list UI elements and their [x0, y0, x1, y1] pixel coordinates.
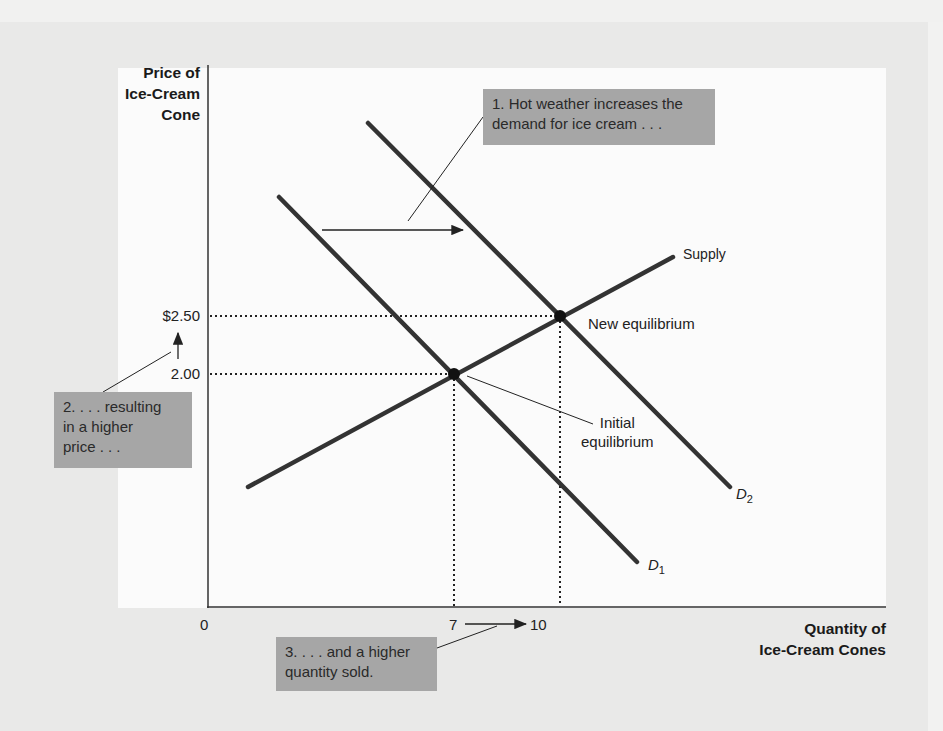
- supply-curve: [248, 257, 673, 487]
- d2-subscript: 2: [747, 493, 753, 505]
- new-equilibrium-label: New equilibrium: [588, 314, 695, 333]
- callout-demand-increase: 1. Hot weather increases the demand for …: [483, 89, 715, 145]
- x-tick-low: 7: [449, 615, 457, 634]
- callout-line: quantity sold.: [285, 662, 428, 682]
- initial-equilibrium-point: [448, 368, 460, 380]
- callout-higher-quantity: 3. . . . and a higher quantity sold.: [276, 637, 437, 691]
- initial-eq-line: equilibrium: [581, 432, 654, 451]
- d1-label: D1: [648, 555, 665, 580]
- x-title-line: Ice-Cream Cones: [720, 639, 886, 660]
- callout-higher-price: 2. . . . resulting in a higher price . .…: [54, 392, 192, 468]
- x-axis-title: Quantity of Ice-Cream Cones: [720, 618, 886, 660]
- callout1-leader: [408, 117, 483, 221]
- y-title-line: Price of: [100, 62, 200, 83]
- y-axis-title: Price of Ice-Cream Cone: [100, 62, 200, 125]
- y-tick-high: $2.50: [150, 306, 200, 325]
- callout3-leader: [437, 626, 497, 648]
- y-title-line: Ice-Cream: [100, 83, 200, 104]
- callout-line: in a higher: [63, 417, 183, 437]
- demand-curve-d1: [279, 197, 637, 562]
- initial-eq-leader: [467, 376, 593, 424]
- guide-lines: [210, 316, 560, 606]
- y-tick-low: 2.00: [150, 364, 200, 383]
- x-tick-origin: 0: [200, 615, 208, 634]
- callout-line: demand for ice cream . . .: [492, 114, 706, 134]
- x-tick-high: 10: [530, 615, 547, 634]
- demand-curve-d2: [368, 123, 730, 487]
- callout-line: 1. Hot weather increases the: [492, 94, 706, 114]
- initial-equilibrium-label: Initial equilibrium: [581, 413, 654, 451]
- callout-line: 3. . . . and a higher: [285, 642, 428, 662]
- d2-letter: D: [736, 485, 747, 502]
- d2-label: D2: [736, 484, 753, 509]
- d1-letter: D: [648, 556, 659, 573]
- initial-eq-line: Initial: [581, 413, 654, 432]
- callout-line: 2. . . . resulting: [63, 397, 183, 417]
- d1-subscript: 1: [659, 564, 665, 576]
- y-title-line: Cone: [100, 104, 200, 125]
- supply-label: Supply: [683, 245, 726, 264]
- new-equilibrium-point: [554, 310, 566, 322]
- x-title-line: Quantity of: [720, 618, 886, 639]
- callout-line: price . . .: [63, 437, 183, 457]
